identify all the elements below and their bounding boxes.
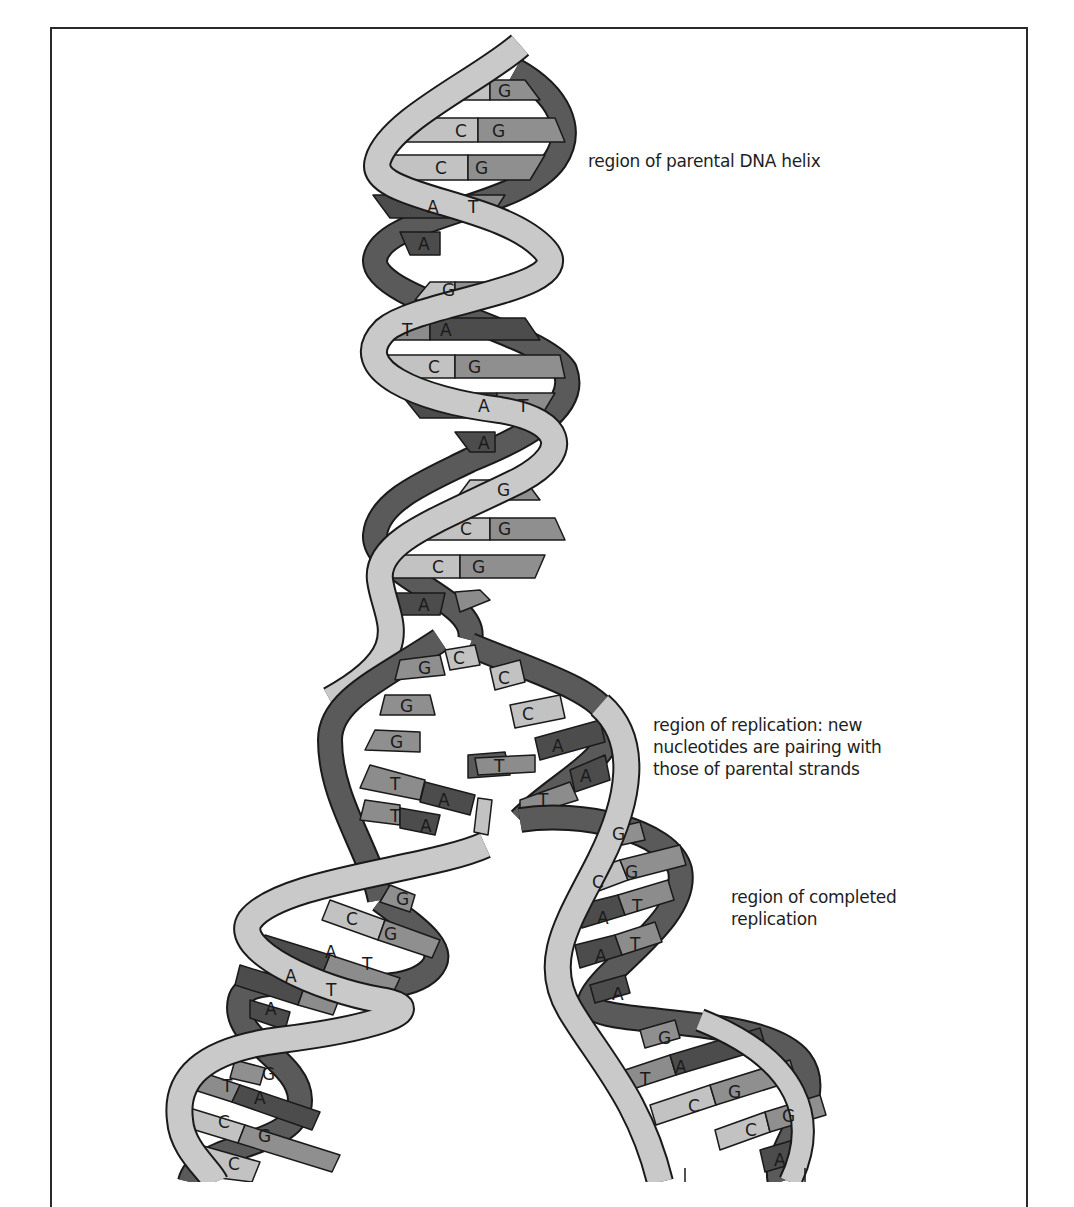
base-label: A — [420, 816, 432, 836]
base-label: T — [639, 1069, 651, 1089]
base-label: A — [595, 946, 607, 966]
base-label: A — [418, 595, 430, 615]
base-label: G — [442, 280, 455, 300]
label-parental-helix: region of parental DNA helix — [588, 150, 820, 172]
base-label: G — [262, 1064, 275, 1084]
base-label: G — [468, 357, 481, 377]
base-label: T — [401, 320, 413, 340]
base-label: A — [438, 790, 450, 810]
base-label: C — [346, 909, 358, 929]
base-label: G — [498, 81, 511, 101]
base-label: A — [774, 1150, 786, 1170]
base-label: T — [389, 774, 401, 794]
base-label: T — [221, 1076, 233, 1096]
base-label: G — [625, 862, 638, 882]
base-label: C — [218, 1112, 230, 1132]
base-label: G — [258, 1126, 271, 1146]
label-replication-region: region of replication: new nucleotides a… — [653, 714, 882, 780]
base-label: C — [522, 704, 534, 724]
base-label: G — [390, 732, 403, 752]
base-label: C — [435, 158, 447, 178]
base-label: G — [400, 696, 413, 716]
base-label: G — [472, 557, 485, 577]
base-label: G — [658, 1028, 671, 1048]
base-label: T — [493, 756, 505, 776]
base-label: C — [498, 668, 510, 688]
base-label: A — [675, 1057, 687, 1077]
base-label: C — [460, 519, 472, 539]
base-label: C — [432, 557, 444, 577]
label-completed-replication: region of completed replication — [731, 886, 896, 930]
base-label: C — [688, 1096, 700, 1116]
base-label: G — [498, 519, 511, 539]
base-label: T — [631, 896, 643, 916]
base-label: A — [552, 736, 564, 756]
base-label: G — [492, 121, 505, 141]
base-label: T — [517, 396, 529, 416]
base-label: G — [418, 658, 431, 678]
base-label: C — [428, 357, 440, 377]
base-label: T — [389, 806, 401, 826]
base-label: A — [285, 966, 297, 986]
base-label: C — [745, 1120, 757, 1140]
base-label: A — [580, 766, 592, 786]
base-label: A — [325, 942, 337, 962]
base-label: A — [418, 234, 430, 254]
base-label: T — [361, 954, 373, 974]
base-label: A — [478, 433, 490, 453]
base-label: T — [537, 790, 549, 810]
base-label: C — [453, 648, 465, 668]
base-label: G — [497, 480, 510, 500]
base-label: A — [427, 197, 439, 217]
base-letters: G C G C G A T A G T A C G A T A G C G C … — [218, 81, 795, 1174]
base-label: C — [455, 121, 467, 141]
base-label: G — [475, 158, 488, 178]
base-label: A — [597, 908, 609, 928]
base-label: G — [396, 889, 409, 909]
base-label: A — [612, 984, 624, 1004]
base-label: G — [384, 924, 397, 944]
base-label: C — [228, 1154, 240, 1174]
base-label: T — [325, 980, 337, 1000]
base-label: A — [478, 396, 490, 416]
base-label: A — [254, 1088, 266, 1108]
base-label: G — [728, 1082, 741, 1102]
base-label: A — [440, 320, 452, 340]
base-label: A — [265, 999, 277, 1019]
base-label: T — [467, 197, 479, 217]
base-label: C — [592, 872, 604, 892]
base-label: G — [782, 1106, 795, 1126]
base-label: T — [629, 934, 641, 954]
base-label: G — [612, 824, 625, 844]
